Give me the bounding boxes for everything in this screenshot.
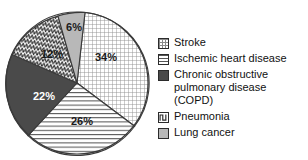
legend-swatch-zigzag-icon <box>158 112 169 123</box>
pie-slice-label-lung-cancer: 6% <box>66 21 82 33</box>
legend-label-lung-cancer: Lung cancer <box>174 126 235 139</box>
pie-slice-label-copd: 22% <box>33 90 55 102</box>
pie-slice-label-ischemic-heart-disease: 26% <box>71 115 93 127</box>
pie-chart-svg: 34% 26% 22% 12% 6% <box>4 8 150 156</box>
pie-chart-plot-area: 34% 26% 22% 12% 6% <box>4 8 150 156</box>
pie-slice-label-pneumonia: 12% <box>41 48 63 60</box>
legend-item-lung-cancer[interactable]: Lung cancer <box>158 126 308 139</box>
legend-label-stroke: Stroke <box>174 36 206 49</box>
legend-label-copd: Chronic obstructive pulmonary disease (C… <box>174 68 308 107</box>
legend-label-pneumonia: Pneumonia <box>174 110 230 123</box>
legend-swatch-solid-dark-icon <box>158 70 169 81</box>
pie-chart-figure: 34% 26% 22% 12% 6% Stroke Ischemic heart… <box>0 0 308 160</box>
legend-item-ischemic-heart-disease[interactable]: Ischemic heart disease <box>158 52 308 65</box>
legend-item-pneumonia[interactable]: Pneumonia <box>158 110 308 123</box>
legend-label-ischemic-heart-disease: Ischemic heart disease <box>174 52 287 65</box>
legend-swatch-grid-icon <box>158 38 169 49</box>
chart-legend: Stroke Ischemic heart disease Chronic ob… <box>158 36 308 142</box>
pie-slice-label-stroke: 34% <box>95 51 117 63</box>
legend-swatch-solid-light-icon <box>158 128 169 139</box>
legend-item-copd[interactable]: Chronic obstructive pulmonary disease (C… <box>158 68 308 107</box>
legend-item-stroke[interactable]: Stroke <box>158 36 308 49</box>
legend-swatch-horizontal-lines-icon <box>158 54 169 65</box>
